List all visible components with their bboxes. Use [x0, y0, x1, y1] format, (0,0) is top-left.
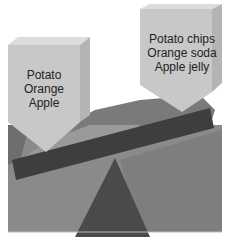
right-item: Apple jelly [138, 60, 226, 74]
left-item: Apple [8, 96, 80, 110]
left-item: Orange [8, 82, 80, 96]
right-weight-label: Potato chips Orange soda Apple jelly [138, 32, 226, 74]
right-item: Orange soda [138, 46, 226, 60]
right-weight-top [140, 4, 222, 9]
left-weight-label: Potato Orange Apple [8, 68, 80, 110]
right-item: Potato chips [138, 32, 226, 46]
left-weight-top [8, 37, 90, 45]
left-weight-side [80, 37, 90, 122]
left-item: Potato [8, 68, 80, 82]
seesaw-diagram: Potato Orange Apple Potato chips Orange … [0, 0, 230, 242]
